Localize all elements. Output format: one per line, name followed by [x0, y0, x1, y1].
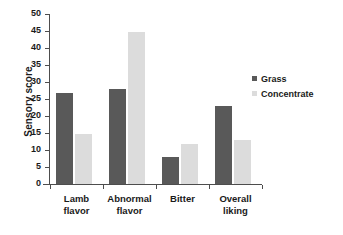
x-axis-label-line: Overall — [196, 193, 276, 205]
plot-area — [50, 14, 262, 184]
y-axis-tick-label: 15 — [31, 127, 41, 137]
sensory-score-bar-chart: Sensory score 05101520253035404550 Lambf… — [0, 0, 343, 235]
y-axis-tick-label: 45 — [31, 25, 41, 35]
y-axis-tick-label: 5 — [36, 161, 41, 171]
y-axis-tick-label: 25 — [31, 93, 41, 103]
bar-grass-lamb-flavor — [56, 93, 73, 184]
x-axis-label-overall-liking: Overallliking — [196, 193, 276, 217]
bar-grass-abnormal-flavor — [109, 89, 126, 184]
x-axis-tick-mark — [50, 185, 51, 189]
y-axis-tick-label: 20 — [31, 110, 41, 120]
x-axis-tick-mark — [209, 185, 210, 189]
y-axis-tick-label: 35 — [31, 59, 41, 69]
chart-legend: GrassConcentrate — [252, 72, 314, 102]
legend-item-label: Concentrate — [261, 89, 314, 99]
bar-concentrate-bitter — [181, 144, 198, 184]
x-axis-line — [43, 184, 262, 185]
bar-concentrate-abnormal-flavor — [128, 32, 145, 184]
bar-grass-bitter — [162, 157, 179, 184]
x-axis-tick-mark — [103, 185, 104, 189]
y-axis-tick-label: 40 — [31, 42, 41, 52]
legend-item-grass[interactable]: Grass — [252, 72, 314, 85]
y-axis-tick-label: 50 — [31, 8, 41, 18]
bar-grass-overall-liking — [215, 106, 232, 184]
legend-swatch-icon — [252, 76, 257, 81]
y-axis-tick-label: 0 — [36, 178, 41, 188]
bar-concentrate-lamb-flavor — [75, 134, 92, 184]
legend-item-label: Grass — [261, 74, 287, 84]
x-axis-label-line: liking — [196, 205, 276, 217]
x-axis-tick-mark — [156, 185, 157, 189]
x-axis-tick-mark — [262, 185, 263, 189]
legend-item-concentrate[interactable]: Concentrate — [252, 87, 314, 100]
legend-swatch-icon — [252, 91, 257, 96]
x-axis-label-line: flavor — [90, 205, 170, 217]
y-axis-tick-label: 30 — [31, 76, 41, 86]
y-axis-tick-label: 10 — [31, 144, 41, 154]
bar-concentrate-overall-liking — [234, 140, 251, 184]
